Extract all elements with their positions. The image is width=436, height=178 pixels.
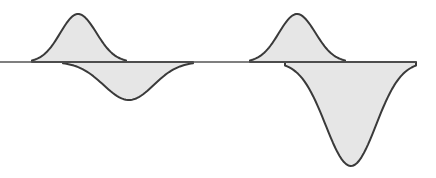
- left-pair-positive-lobe: [32, 14, 126, 62]
- right-pair-positive-lobe: [250, 14, 345, 62]
- lobes-layer: [32, 14, 416, 166]
- left-pair-negative-lobe: [63, 62, 193, 100]
- right-pair-negative-lobe: [285, 62, 416, 166]
- waveform-canvas: [0, 0, 436, 178]
- waveform-diagram: [0, 0, 436, 178]
